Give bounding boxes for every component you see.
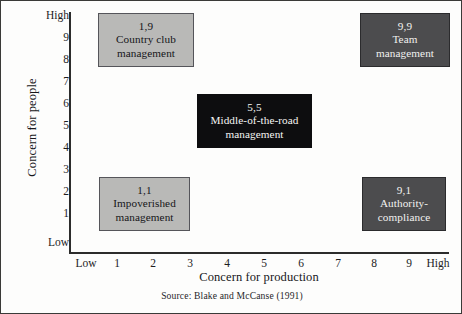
grid-cell-coordinate: 1,1	[137, 184, 151, 197]
grid-cell-team-management: 9,9 Team management	[360, 13, 450, 67]
leadership-grid-figure: Concern for people High 9 8 7 6 5 4 3 2 …	[0, 0, 462, 314]
grid-cell-coordinate: 5,5	[247, 101, 261, 114]
grid-cell-label-line2: management	[117, 47, 175, 60]
grid-cell-coordinate: 9,1	[397, 184, 411, 197]
y-tick-4: 4	[5, 141, 69, 153]
y-tick-low: Low	[5, 236, 69, 248]
grid-cell-label-line2: management	[376, 47, 434, 60]
grid-cell-label-line1: Country club	[116, 33, 176, 46]
x-tick-high: High	[427, 257, 450, 269]
y-tick-5: 5	[5, 119, 69, 131]
y-axis-line	[69, 12, 71, 254]
grid-cell-middle-of-the-road-management: 5,5 Middle-of-the-road management	[197, 94, 312, 148]
x-tick-4: 4	[224, 257, 230, 269]
y-tick-9: 9	[5, 31, 69, 43]
source-note: Source: Blake and McCanse (1991)	[1, 290, 462, 301]
y-tick-high: High	[5, 9, 69, 21]
x-tick-1: 1	[114, 257, 120, 269]
grid-cell-authority-compliance: 9,1 Authority- compliance	[362, 177, 446, 231]
x-axis-title: Concern for production	[69, 270, 449, 285]
y-tick-7: 7	[5, 75, 69, 87]
x-tick-low: Low	[75, 257, 96, 269]
y-tick-3: 3	[5, 163, 69, 175]
x-tick-9: 9	[406, 257, 412, 269]
grid-cell-country-club-management: 1,9 Country club management	[98, 13, 194, 67]
x-tick-5: 5	[261, 257, 267, 269]
x-tick-3: 3	[187, 257, 193, 269]
grid-cell-label-line2: management	[115, 211, 173, 224]
y-axis-tick-group: High 9 8 7 6 5 4 3 2 1 Low	[1, 1, 69, 314]
grid-cell-label-line1: Team	[392, 33, 417, 46]
y-tick-8: 8	[5, 53, 69, 65]
x-tick-8: 8	[371, 257, 377, 269]
grid-cell-impoverished-management: 1,1 Impoverished management	[99, 177, 190, 231]
grid-cell-label-line2: management	[225, 128, 283, 141]
grid-cell-label-line1: Authority-	[380, 197, 428, 210]
x-tick-6: 6	[298, 257, 304, 269]
grid-cell-label-line1: Impoverished	[113, 197, 176, 210]
grid-cell-label-line1: Middle-of-the-road	[210, 114, 298, 127]
x-axis-line	[69, 252, 449, 254]
grid-cell-coordinate: 9,9	[398, 20, 412, 33]
grid-cell-label-line2: compliance	[378, 211, 431, 224]
x-tick-2: 2	[150, 257, 156, 269]
x-tick-7: 7	[335, 257, 341, 269]
y-tick-1: 1	[5, 207, 69, 219]
y-tick-2: 2	[5, 185, 69, 197]
grid-cell-coordinate: 1,9	[139, 20, 153, 33]
y-tick-6: 6	[5, 97, 69, 109]
